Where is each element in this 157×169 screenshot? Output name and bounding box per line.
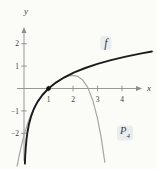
y-tick-label: 2 [15,39,19,48]
y-axis-arrow-icon [22,27,27,33]
y-axis-label: y [24,7,28,16]
curve-f [25,52,152,164]
curve-p4-label: P4 [117,125,133,140]
x-tick-label: 1 [47,95,51,104]
x-axis-arrow-icon [136,86,142,91]
curve-p4-label-subscript: 4 [126,132,130,140]
y-tick-label: 1 [15,62,19,71]
graph-canvas: 123421−1−2 [0,0,157,169]
curve-f-label: f [100,36,111,50]
x-tick-label: 4 [120,95,124,104]
x-tick-label: 3 [96,95,100,104]
marked-point-dot [46,86,51,91]
y-tick-label: −1 [11,107,19,116]
y-tick-label: −2 [11,129,19,138]
function-graph-figure: 123421−1−2 y x f P4 [0,0,157,169]
x-tick-label: 2 [71,95,75,104]
x-axis-label: x [147,84,151,93]
